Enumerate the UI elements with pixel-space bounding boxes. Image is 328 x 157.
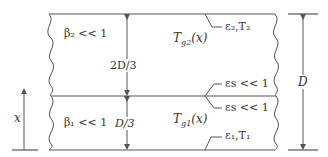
left-break-wave — [48, 14, 54, 150]
upper-temp-arg: (x) — [191, 31, 207, 45]
top-wall-leader — [205, 14, 222, 27]
lower-temp-sub: g1 — [181, 119, 191, 128]
total-thickness-label: D — [298, 75, 308, 89]
lower-beta-label: β₁ << 1 — [64, 117, 107, 128]
right-break-wave — [273, 14, 278, 150]
lower-gas-temperature-label: Tg1(x) — [173, 113, 207, 128]
upper-thickness-text: 2D/3 — [110, 59, 137, 72]
interface-upper-label: εs << 1 — [225, 78, 269, 89]
upper-gas-temperature-label: Tg2(x) — [173, 32, 207, 47]
lower-thickness-label: D/3 — [115, 117, 135, 130]
top-wall-label: ε₂,T₂ — [225, 21, 250, 32]
upper-temp-sub: g2 — [181, 38, 191, 47]
diagram-canvas — [0, 0, 328, 157]
bottom-wall-leader — [205, 137, 222, 150]
x-coordinate-label: x — [14, 112, 21, 124]
upper-temp-main: T — [173, 31, 181, 45]
interface-upper-leader — [205, 84, 222, 96]
upper-thickness-label: 2D/3 — [110, 59, 137, 72]
lower-thickness-text: D/3 — [115, 117, 135, 130]
interface-lower-leader — [205, 96, 222, 108]
lower-temp-main: T — [173, 112, 181, 126]
lower-temp-arg: (x) — [191, 112, 207, 126]
bottom-wall-label: ε₁,T₁ — [225, 130, 250, 141]
upper-beta-label: β₂ << 1 — [64, 28, 107, 39]
interface-lower-label: εs << 1 — [225, 102, 269, 113]
